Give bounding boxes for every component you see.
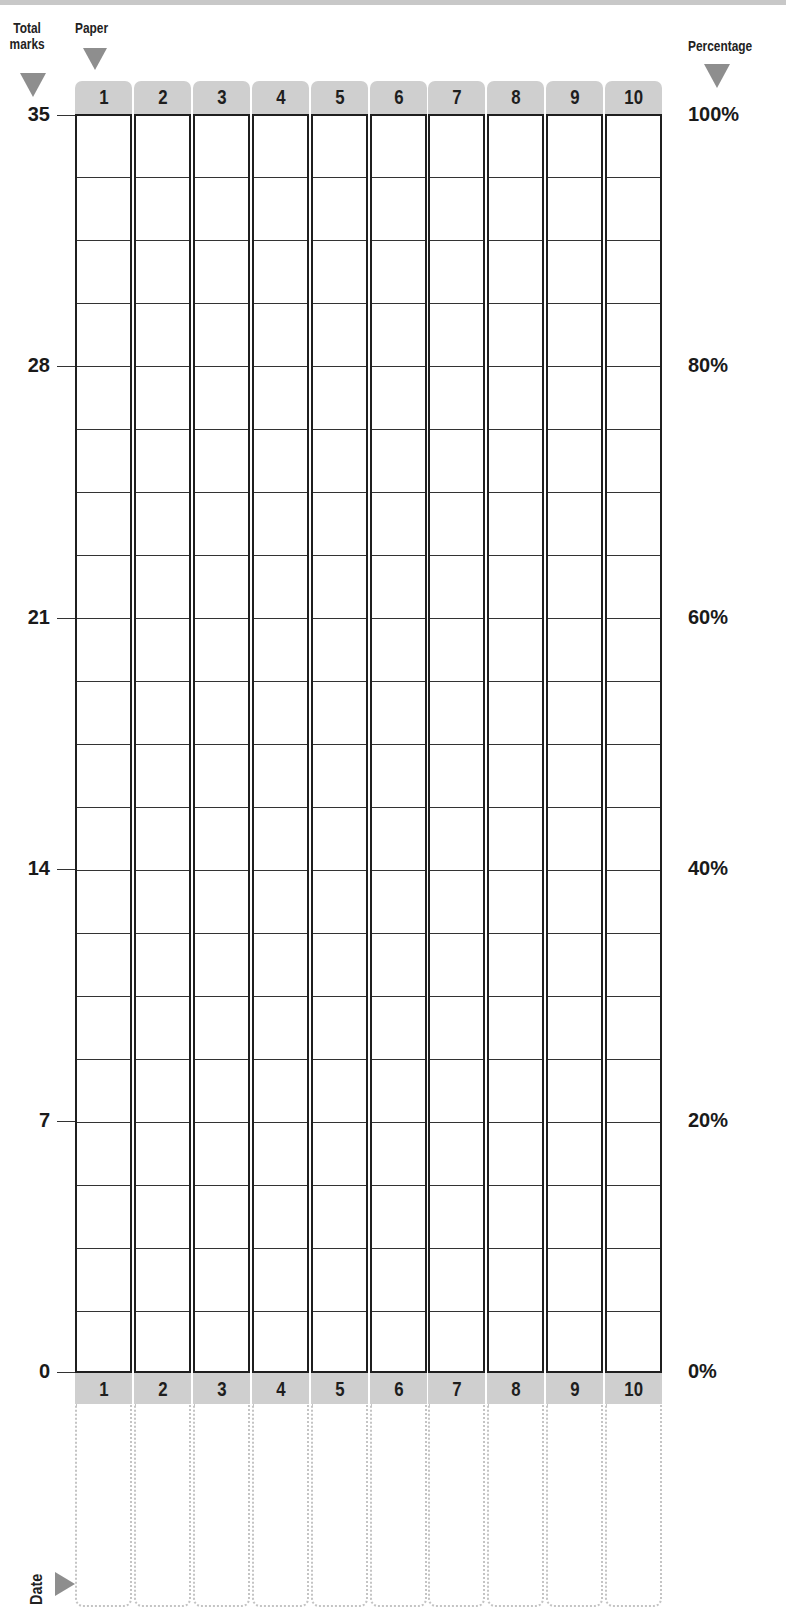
paper-score-column[interactable]	[605, 114, 662, 1373]
paper-number-bottom: 1	[99, 1373, 108, 1405]
paper-number-top: 5	[335, 81, 344, 113]
date-entry-cell[interactable]	[311, 1404, 368, 1607]
paper-score-column[interactable]	[134, 114, 191, 1373]
paper-score-column[interactable]	[428, 114, 485, 1373]
paper-footer-tab: 4	[252, 1373, 309, 1404]
paper-score-column[interactable]	[311, 114, 368, 1373]
paper-score-column[interactable]	[75, 114, 132, 1373]
paper-number-bottom: 4	[276, 1373, 285, 1405]
right-axis-tick-label: 80%	[688, 355, 728, 375]
paper-score-column[interactable]	[370, 114, 427, 1373]
left-axis-tick-mark	[57, 1121, 75, 1122]
paper-footer-tab: 8	[487, 1373, 544, 1404]
paper-score-column[interactable]	[252, 114, 309, 1373]
date-entry-cell[interactable]	[75, 1404, 132, 1607]
paper-number-top: 1	[99, 81, 108, 113]
paper-footer-tab: 7	[428, 1373, 485, 1404]
right-axis-tick-label: 20%	[688, 1110, 728, 1130]
top-edge-strip	[0, 0, 786, 5]
date-entry-cell[interactable]	[193, 1404, 250, 1607]
left-axis-tick-label: 0	[0, 1361, 50, 1381]
paper-header-tab: 9	[546, 81, 603, 115]
paper-header-tab: 5	[311, 81, 368, 115]
total-marks-arrow-icon	[20, 73, 46, 97]
paper-arrow-icon	[83, 48, 107, 70]
paper-score-column[interactable]	[193, 114, 250, 1373]
paper-number-top: 4	[276, 81, 285, 113]
paper-number-top: 3	[217, 81, 226, 113]
paper-header-tab: 4	[252, 81, 309, 115]
date-label: Date	[28, 1574, 46, 1605]
paper-number-top: 6	[394, 81, 403, 113]
paper-number-bottom: 3	[217, 1373, 226, 1405]
paper-header-tab: 2	[134, 81, 191, 115]
left-axis-tick-label: 14	[0, 858, 50, 878]
left-axis-tick-label: 21	[0, 607, 50, 627]
right-axis-tick-label: 100%	[688, 104, 739, 124]
paper-header-tab: 6	[370, 81, 427, 115]
paper-header-tab: 7	[428, 81, 485, 115]
left-axis-tick-mark	[57, 1372, 75, 1373]
paper-number-bottom: 2	[158, 1373, 167, 1405]
paper-footer-tab: 9	[546, 1373, 603, 1404]
paper-number-top: 8	[511, 81, 520, 113]
paper-number-bottom: 7	[452, 1373, 461, 1405]
paper-number-top: 9	[570, 81, 579, 113]
paper-score-column[interactable]	[546, 114, 603, 1373]
date-entry-cell[interactable]	[134, 1404, 191, 1607]
paper-number-bottom: 9	[570, 1373, 579, 1405]
left-axis-tick-mark	[57, 618, 75, 619]
paper-footer-tab: 2	[134, 1373, 191, 1404]
left-axis-tick-label: 7	[0, 1110, 50, 1130]
paper-score-column[interactable]	[487, 114, 544, 1373]
paper-number-top: 2	[158, 81, 167, 113]
right-axis-tick-label: 40%	[688, 858, 728, 878]
paper-number-top: 7	[452, 81, 461, 113]
left-axis-tick-mark	[57, 869, 75, 870]
date-entry-cell[interactable]	[546, 1404, 603, 1607]
total-marks-label: Total marks	[5, 20, 49, 52]
left-axis-tick-label: 28	[0, 355, 50, 375]
paper-footer-tab: 5	[311, 1373, 368, 1404]
date-entry-cell[interactable]	[428, 1404, 485, 1607]
paper-footer-tab: 10	[605, 1373, 662, 1404]
date-entry-cell[interactable]	[605, 1404, 662, 1607]
paper-footer-tab: 1	[75, 1373, 132, 1404]
percentage-label: Percentage	[688, 38, 752, 54]
date-arrow-icon	[55, 1572, 75, 1596]
paper-footer-tab: 6	[370, 1373, 427, 1404]
paper-number-bottom: 8	[511, 1373, 520, 1405]
paper-header-tab: 10	[605, 81, 662, 115]
paper-header-tab: 1	[75, 81, 132, 115]
paper-number-top: 10	[624, 81, 643, 113]
paper-number-bottom: 5	[335, 1373, 344, 1405]
paper-header-tab: 3	[193, 81, 250, 115]
paper-header-tab: 8	[487, 81, 544, 115]
date-entry-cell[interactable]	[370, 1404, 427, 1607]
total-marks-label-line1: Total	[5, 20, 49, 36]
total-marks-label-line2: marks	[5, 36, 49, 52]
date-entry-cell[interactable]	[252, 1404, 309, 1607]
right-axis-tick-label: 0%	[688, 1361, 717, 1381]
paper-number-bottom: 10	[624, 1373, 643, 1405]
paper-footer-tab: 3	[193, 1373, 250, 1404]
paper-number-bottom: 6	[394, 1373, 403, 1405]
date-entry-cell[interactable]	[487, 1404, 544, 1607]
left-axis-tick-mark	[57, 115, 75, 116]
right-axis-tick-label: 60%	[688, 607, 728, 627]
percentage-arrow-icon	[704, 64, 730, 88]
paper-label: Paper	[75, 20, 108, 36]
left-axis-tick-label: 35	[0, 104, 50, 124]
left-axis-tick-mark	[57, 366, 75, 367]
